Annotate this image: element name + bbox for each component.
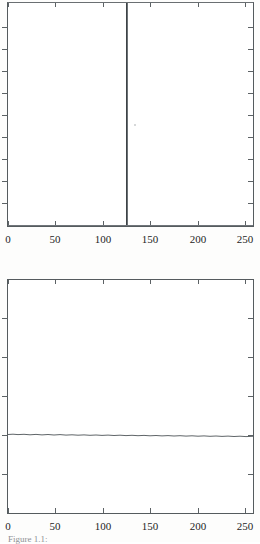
xtick-label-250: 250	[232, 234, 258, 245]
ytick-left-8	[2, 181, 8, 182]
xtick-label-100: 100	[90, 234, 116, 245]
ytick-left-9	[2, 203, 8, 204]
data-flat-signal-path	[8, 434, 253, 436]
scan-speck	[134, 124, 136, 126]
ytick-left-3	[2, 71, 8, 72]
xtick-label-50-b: 50	[45, 521, 65, 532]
ytick-left-6	[2, 137, 8, 138]
figure-caption: Figure 1.1:	[8, 535, 48, 544]
plot-area-top	[7, 2, 254, 227]
ytick-right-2	[248, 49, 253, 50]
xtick-top-150	[150, 3, 151, 7]
xtick-label-0-b: 0	[0, 521, 18, 532]
xtick-label-0: 0	[0, 234, 18, 245]
ytick-right-8	[248, 181, 253, 182]
ytick-right-4	[248, 93, 253, 94]
ytick-left-7	[2, 159, 8, 160]
figure-bottom-panel: 0 50 100 150 200 250 Figure 1.1:	[0, 276, 260, 542]
ytick-right-3	[248, 71, 253, 72]
ytick-left-2	[2, 49, 8, 50]
ytick-right-6	[248, 137, 253, 138]
xtick-label-150-b: 150	[137, 521, 163, 532]
xtick-top-250	[245, 3, 246, 7]
ytick-right-5	[248, 115, 253, 116]
xtick-label-50: 50	[45, 234, 65, 245]
data-baseline-top	[8, 225, 253, 226]
ytick-right-9	[248, 203, 253, 204]
data-flat-signal	[0, 276, 260, 542]
xtick-top-200	[198, 3, 199, 7]
xtick-label-150: 150	[137, 234, 163, 245]
xtick-top-0	[8, 3, 9, 7]
data-impulse-spike-core	[126, 3, 127, 226]
ytick-left-5	[2, 115, 8, 116]
ytick-left-1	[2, 27, 8, 28]
figure-top-panel: 0 50 100 150 200 250	[0, 0, 260, 248]
xtick-label-100-b: 100	[90, 521, 116, 532]
xtick-label-200: 200	[185, 234, 211, 245]
ytick-right-7	[248, 159, 253, 160]
ytick-left-4	[2, 93, 8, 94]
ytick-right-1	[248, 27, 253, 28]
xtick-label-200-b: 200	[185, 521, 211, 532]
xtick-top-100	[103, 3, 104, 7]
xtick-label-250-b: 250	[232, 521, 258, 532]
xtick-top-50	[55, 3, 56, 7]
